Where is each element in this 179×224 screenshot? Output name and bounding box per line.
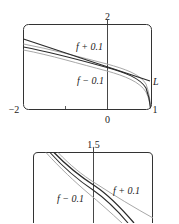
chart-2: 1.5 f + 0.1 f − 0.1: [34, 139, 154, 223]
chart-2-label-f-minus: f − 0.1: [57, 193, 84, 204]
chart-1-label-left: −2: [9, 104, 20, 115]
chart-1-label-f-plus: f + 0.1: [76, 41, 103, 52]
chart-2-label-top: 1.5: [87, 139, 100, 150]
chart-1-label-top: 2: [105, 11, 110, 22]
chart-2-label-f-plus: f + 0.1: [113, 185, 140, 196]
chart-figure: 2 −2 1 0 f + 0.1 f − 0.1 L 1.5 f + 0.1 f…: [0, 0, 179, 223]
chart-1-label-f-minus: f − 0.1: [77, 75, 104, 86]
chart-1-frame: [24, 25, 152, 110]
chart-1-label-bottom: 0: [105, 114, 110, 125]
chart-1-label-right: 1: [153, 104, 158, 115]
chart-1-label-L: L: [152, 76, 159, 87]
chart-2-curve-f-minus: [46, 153, 122, 224]
chart-1: 2 −2 1 0 f + 0.1 f − 0.1 L: [9, 11, 159, 125]
